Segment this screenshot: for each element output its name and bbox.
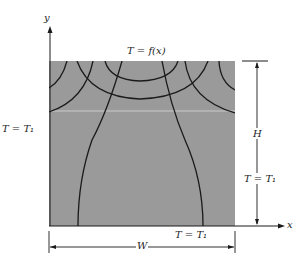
width-arrow-left-icon	[50, 245, 56, 249]
y-axis-label: y	[44, 12, 50, 23]
plate-region	[49, 61, 235, 226]
y-axis-arrow-icon	[48, 26, 53, 33]
right-boundary-label: T = T₁	[243, 173, 277, 184]
width-label: W	[136, 240, 148, 251]
left-boundary-label: T = T₁	[2, 123, 34, 134]
bottom-boundary-label: T = T₁	[175, 229, 207, 240]
height-arrow-down-icon	[255, 219, 259, 225]
top-boundary-label: T = f(x)	[127, 45, 166, 56]
x-axis-label: x	[287, 219, 293, 230]
x-axis-arrow-icon	[278, 224, 285, 229]
width-arrow-right-icon	[228, 245, 234, 249]
height-label: H	[252, 128, 263, 139]
height-arrow-up-icon	[255, 62, 259, 68]
